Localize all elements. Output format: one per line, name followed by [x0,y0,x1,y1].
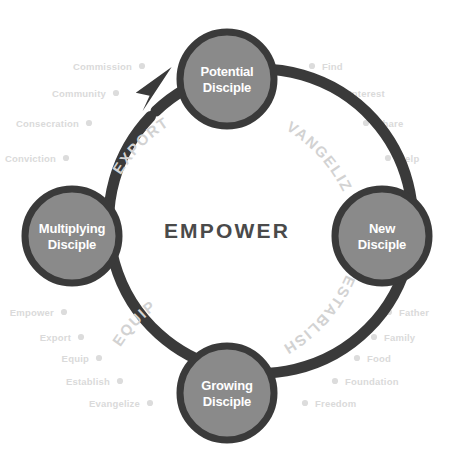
outer-list-item: Consecration [16,118,92,129]
node-multiplying-disciple[interactable]: Multiplying Disciple [25,189,119,283]
outer-label-text: Freedom [315,398,357,409]
bullet-dot [96,355,102,361]
node-label-line1: Growing [201,378,253,393]
node-label-line2: Disciple [203,394,251,409]
node-label-line2: Disciple [203,80,251,95]
bullet-dot [371,334,377,340]
bullet-dot [309,63,315,69]
outer-label-text: Conviction [5,153,56,164]
outer-label-text: Find [322,61,343,72]
node-label-line2: Disciple [48,237,96,252]
outer-list-item: Empower [10,307,67,318]
node-circle[interactable] [180,346,274,440]
node-label-line1: New [369,221,396,236]
node-new-disciple[interactable]: New Disciple [335,189,429,283]
outer-label-text: Father [399,307,429,318]
outer-list-item: Food [354,353,391,364]
bullet-dot [385,155,391,161]
outer-label-text: Food [367,353,391,364]
outer-list-item: Commission [73,61,145,72]
outer-list-item: Establish [66,376,123,387]
node-growing-disciple[interactable]: Growing Disciple [180,346,274,440]
outer-label-text: Commission [73,61,132,72]
outer-label-text: Equip [62,353,89,364]
outer-list-item: Family [371,332,416,343]
outer-label-text: Empower [10,307,54,318]
node-potential-disciple[interactable]: Potential Disciple [180,32,274,126]
outer-label-text: Establish [66,376,110,387]
outer-list-item: Father [386,307,429,318]
outer-label-text: Family [384,332,416,343]
outer-list-item: Community [52,88,119,99]
bullet-dot [354,355,360,361]
bullet-dot [332,378,338,384]
bullet-dot [63,155,69,161]
node-label-line2: Disciple [358,237,406,252]
bullet-dot [113,90,119,96]
node-circle[interactable] [180,32,274,126]
bullet-dot [302,400,308,406]
outer-list-item: Evangelize [89,398,153,409]
outer-label-text: Community [52,88,107,99]
outer-label-text: Export [40,332,72,343]
outer-list-item: Foundation [332,376,399,387]
bullet-dot [61,309,67,315]
center-label: EMPOWER [164,219,290,242]
node-label-line1: Multiplying [39,221,106,236]
diagram-canvas: Find Interest Share Help [0,0,454,468]
outer-list-item: Conviction [5,153,69,164]
bullet-dot [78,334,84,340]
arc-labels: EVANGELIZE ESTABLISH EQUIP EXPORT [0,0,359,359]
node-label-line1: Potential [200,64,253,79]
bullet-dot [86,120,92,126]
bullet-dot [139,63,145,69]
bullet-dot [147,400,153,406]
outer-label-text: Evangelize [89,398,140,409]
outer-label-text: Consecration [16,118,79,129]
discipleship-cycle-diagram: Find Interest Share Help [0,0,454,468]
outer-list-item: Equip [62,353,102,364]
outer-label-text: Foundation [345,376,399,387]
outer-list-item: Freedom [302,398,357,409]
node-circle[interactable] [25,189,119,283]
node-circle[interactable] [335,189,429,283]
outer-list-item: Find [309,61,343,72]
bullet-dot [117,378,123,384]
outer-list-item: Export [40,332,84,343]
